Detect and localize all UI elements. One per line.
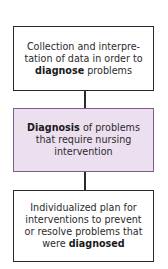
connector-line-1 [84,91,86,108]
connector-line-2 [84,172,86,190]
node-text: Collection and interpre-tation of data i… [24,41,142,64]
node-diagnosis-text: Diagnosis of problems that require nursi… [20,122,147,158]
node-data-collection: Collection and interpre-tation of data i… [13,26,154,91]
node-bold-term: diagnose [35,65,84,76]
node-data-collection-text: Collection and interpre-tation of data i… [20,41,147,77]
node-text: problems [84,65,132,76]
node-planning: Individualized plan for interventions to… [13,190,154,262]
node-planning-text: Individualized plan for interventions to… [20,202,147,250]
node-diagnosis: Diagnosis of problems that require nursi… [13,108,154,172]
flowchart-canvas: Collection and interpre-tation of data i… [0,0,168,269]
node-bold-term: diagnosed [69,238,125,249]
node-bold-term: Diagnosis [27,122,80,133]
